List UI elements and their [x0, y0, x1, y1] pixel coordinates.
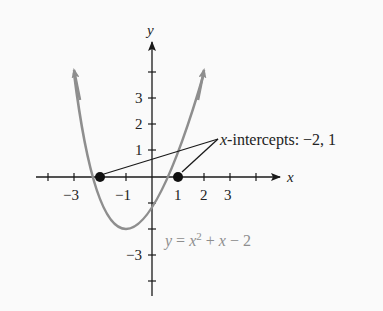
- y-tick-label: 3: [135, 90, 143, 106]
- x-tick-label: 2: [200, 187, 208, 203]
- y-tick-label: 1: [135, 142, 143, 158]
- y-axis-label: y: [145, 22, 154, 38]
- x-intercept-point: [173, 172, 183, 182]
- intercepts-annotation: x-intercepts: −2, 1: [219, 131, 336, 149]
- x-intercept-point: [95, 172, 105, 182]
- curve-arrow-right: [198, 70, 204, 100]
- y-tick-label: −3: [126, 247, 142, 263]
- x-tick-label: −3: [63, 187, 79, 203]
- x-tick-label: −1: [115, 187, 131, 203]
- callout-line: [104, 139, 218, 174]
- x-tick-label: 1: [174, 187, 182, 203]
- y-tick-label: 2: [135, 116, 143, 132]
- parabola-graph: x y −3 −1 1 2 3 3 2 1 −3 x-intercepts: −…: [0, 0, 383, 311]
- x-axis-label: x: [286, 169, 294, 185]
- equation-label: y = x2 + x − 2: [163, 230, 251, 250]
- x-tick-label: 3: [224, 187, 232, 203]
